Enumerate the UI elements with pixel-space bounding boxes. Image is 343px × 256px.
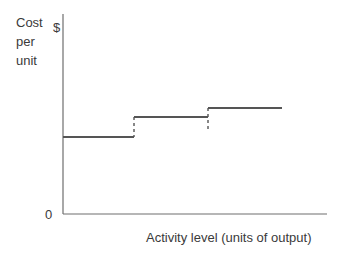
chart-plot (0, 0, 343, 256)
